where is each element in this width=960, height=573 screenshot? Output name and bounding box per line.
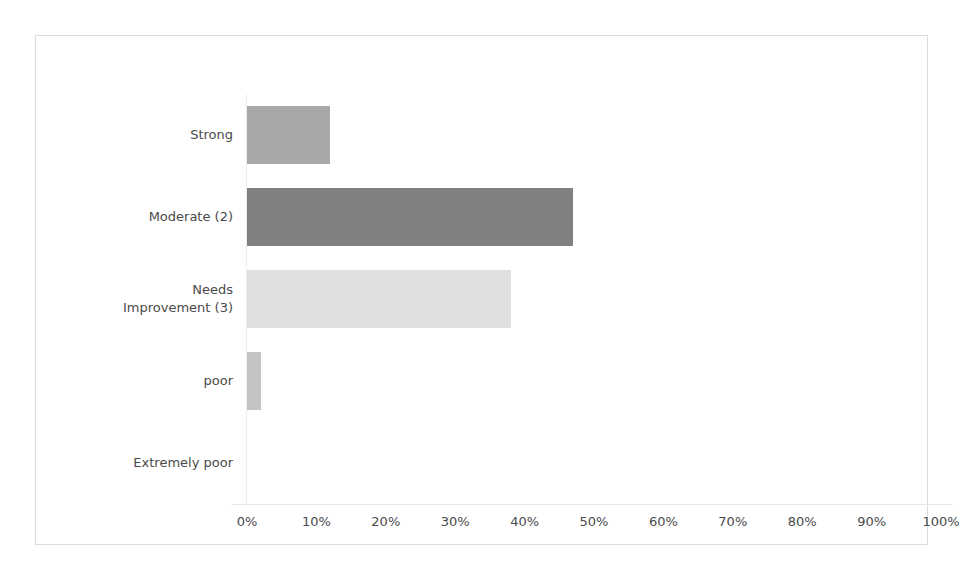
category-label: Strong [63,106,233,164]
bar [247,106,330,164]
category-label: Moderate (2) [63,188,233,246]
bar-row: Strong [247,94,941,176]
x-tick-label: 80% [788,514,817,529]
bar-row: Extremely poor [247,422,941,504]
category-label: Needs Improvement (3) [63,270,233,328]
bar-row: Needs Improvement (3) [247,258,941,340]
x-axis-tick-labels: 0%10%20%30%40%50%60%70%80%90%100% [247,514,941,536]
x-tick-label: 20% [371,514,400,529]
plot-area: StrongModerate (2)Needs Improvement (3)p… [247,94,941,504]
chart-frame: StrongModerate (2)Needs Improvement (3)p… [35,35,928,545]
x-tick-label: 100% [922,514,959,529]
x-axis-line [231,504,953,505]
bar-row: poor [247,340,941,422]
bar-row: Moderate (2) [247,176,941,258]
category-label: poor [63,352,233,410]
bar [247,270,511,328]
x-tick-label: 50% [580,514,609,529]
x-tick-label: 70% [718,514,747,529]
x-tick-label: 0% [237,514,258,529]
x-tick-label: 90% [857,514,886,529]
bar [247,188,573,246]
category-label: Extremely poor [63,434,233,492]
x-tick-label: 10% [302,514,331,529]
bar [247,352,261,410]
x-tick-label: 40% [510,514,539,529]
x-tick-label: 30% [441,514,470,529]
x-tick-label: 60% [649,514,678,529]
